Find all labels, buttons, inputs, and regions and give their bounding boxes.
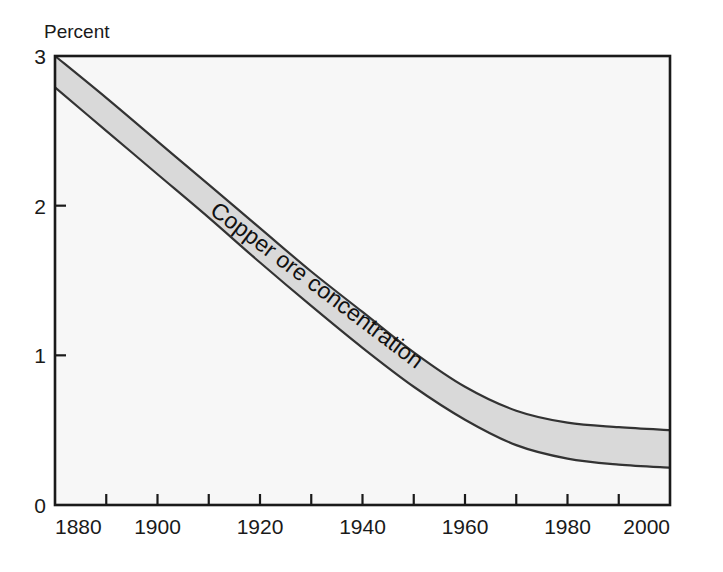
- x-axis-tick-label: 1940: [339, 515, 386, 538]
- y-axis-tick-labels: 0123: [34, 45, 46, 517]
- y-axis-tick-label: 2: [34, 195, 46, 218]
- x-axis-tick-label: 1960: [442, 515, 489, 538]
- copper-ore-concentration-chart: 1880190019201940196019802000 0123 Percen…: [0, 0, 723, 572]
- x-axis-tick-label: 1900: [134, 515, 181, 538]
- y-axis-tick-label: 0: [34, 494, 46, 517]
- y-axis-tick-label: 1: [34, 344, 46, 367]
- chart-figure: 1880190019201940196019802000 0123 Percen…: [0, 0, 723, 572]
- y-axis-title: Percent: [44, 21, 110, 42]
- x-axis-tick-label: 1920: [237, 515, 284, 538]
- y-axis-tick-label: 3: [34, 45, 46, 68]
- x-axis-tick-label: 1980: [544, 515, 591, 538]
- x-axis-tick-label: 2000: [623, 515, 670, 538]
- x-axis-tick-labels: 1880190019201940196019802000: [55, 515, 670, 538]
- x-axis-tick-label: 1880: [55, 515, 102, 538]
